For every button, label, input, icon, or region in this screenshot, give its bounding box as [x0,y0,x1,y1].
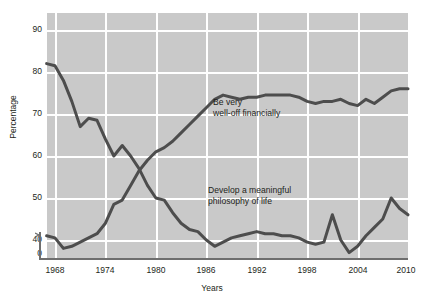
y-tick-60: 60 [20,151,42,160]
figure-chart: Be very well-off financially Develop a m… [0,0,424,308]
annotation-philosophy-line1: Develop a meaningful [208,185,291,196]
x-tick-1998: 1998 [287,265,327,275]
plot-area: Be very well-off financially Develop a m… [47,13,408,258]
x-tick-1974: 1974 [85,265,125,275]
x-tick-1992: 1992 [237,265,277,275]
y-tick-50: 50 [20,193,42,202]
x-tick-1986: 1986 [186,265,226,275]
series-line-philosophy [47,64,408,253]
y-tick-70: 70 [20,109,42,118]
annotation-philosophy-line2: philosophy of life [208,196,291,207]
annotation-well-off-line1: Be very [213,97,280,108]
gridline-vertical-2010 [408,13,410,258]
series-lines [47,13,408,258]
y-axis-ticks: 90 80 70 60 50 40 0 [18,0,42,308]
x-tick-2010: 2010 [386,265,424,275]
axis-break-icon [35,231,45,239]
x-axis-title: Years [0,283,424,293]
x-axis-line [39,258,408,260]
x-tick-1980: 1980 [136,265,176,275]
y-tick-80: 80 [20,67,42,76]
annotation-well-off-line2: well-off financially [213,108,280,119]
x-tick-1968: 1968 [35,265,75,275]
annotation-well-off: Be very well-off financially [213,97,280,119]
y-axis-title: Percentage [8,84,18,150]
annotation-philosophy: Develop a meaningful philosophy of life [208,185,291,207]
y-tick-90: 90 [20,25,42,34]
x-tick-2004: 2004 [338,265,378,275]
